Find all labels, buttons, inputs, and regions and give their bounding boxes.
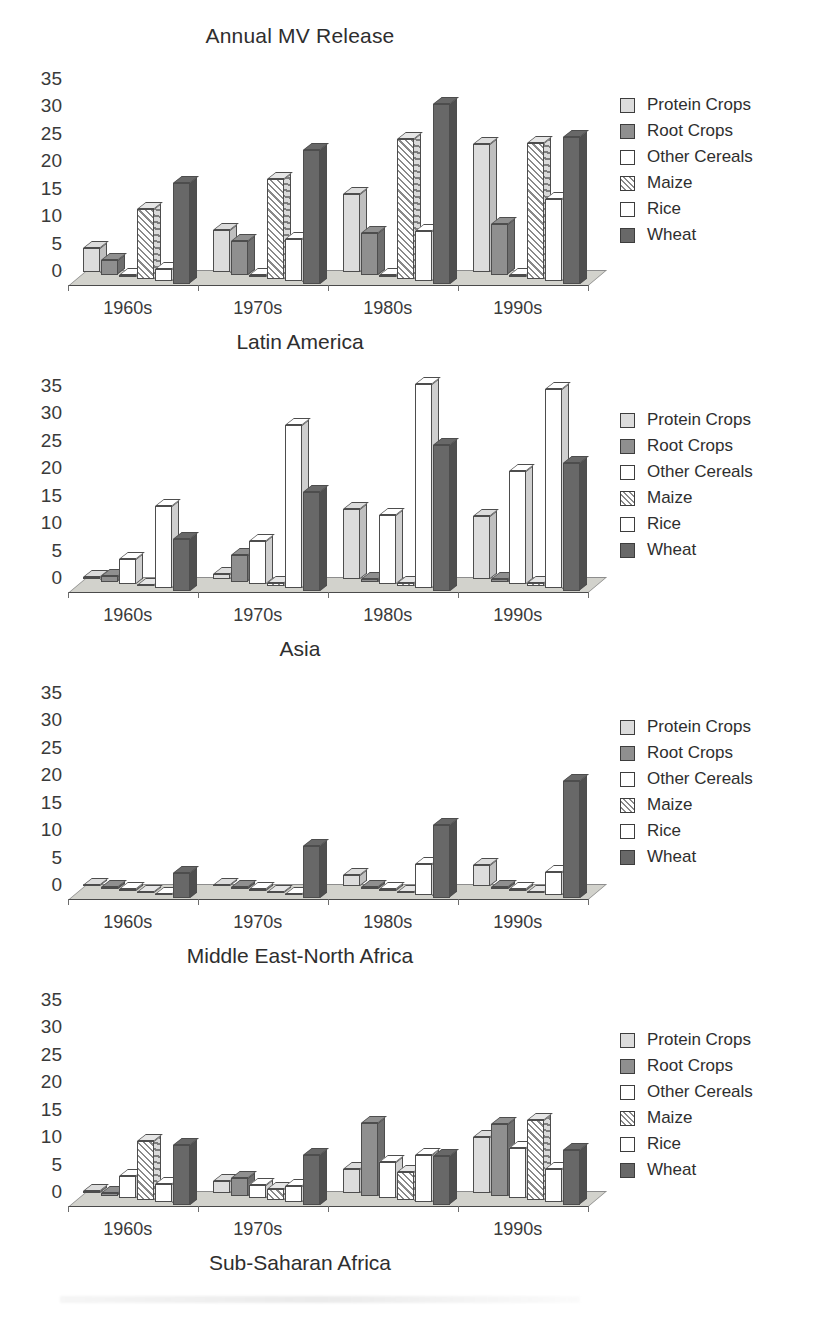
x-axis-label-1980s: 1980s	[363, 298, 412, 319]
bar-face	[119, 275, 136, 277]
legend-item-label: Root Crops	[647, 1056, 733, 1076]
wheat-swatch-icon	[620, 850, 635, 865]
bar-face	[545, 389, 562, 589]
bar-face	[83, 248, 100, 273]
bar-wheat-1980s	[433, 825, 450, 897]
bar-face	[343, 875, 360, 886]
x-axis-tick	[588, 592, 589, 598]
root-crops-swatch-icon	[620, 124, 635, 139]
bar-rice-1960s	[155, 894, 172, 896]
protein-crops-swatch-icon	[620, 98, 635, 113]
legend-item-rice[interactable]: Rice	[620, 511, 753, 537]
bar-face	[267, 583, 284, 586]
x-axis-label-1980s: 1980s	[363, 912, 412, 933]
bar-side	[190, 533, 197, 591]
x-axis-label-1970s: 1970s	[233, 298, 282, 319]
bar-face	[563, 463, 580, 590]
bar-face	[433, 104, 450, 284]
bar-face	[473, 865, 490, 886]
bar-maize-1970s	[267, 179, 284, 279]
bar-wheat-1980s	[433, 104, 450, 284]
x-axis-label-1960s: 1960s	[103, 605, 152, 626]
bar-other-cereals-1970s	[249, 541, 266, 584]
legend-item-wheat[interactable]: Wheat	[620, 222, 753, 248]
rice-swatch-icon	[620, 202, 635, 217]
legend-item-protein-crops[interactable]: Protein Crops	[620, 714, 753, 740]
bar-wheat-1960s	[173, 183, 190, 283]
legend-item-label: Wheat	[647, 540, 696, 560]
bar-maize-1970s	[267, 1189, 284, 1200]
bar-face	[343, 194, 360, 272]
bar-side	[266, 536, 273, 584]
legend-item-wheat[interactable]: Wheat	[620, 844, 753, 870]
y-tick-0: 0	[51, 568, 62, 587]
legend-item-root-crops[interactable]: Root Crops	[620, 433, 753, 459]
bar-maize-1980s	[397, 892, 414, 894]
bar-side	[360, 504, 367, 580]
legend-item-maize[interactable]: Maize	[620, 170, 753, 196]
bar-rice-1990s	[545, 389, 562, 589]
figure-title: Annual MV Release	[0, 24, 600, 48]
chart-panel-latin-america: 051015202530351960s1970s1980s1990sLatin …	[0, 78, 829, 366]
protein-crops-swatch-icon	[620, 720, 635, 735]
legend-item-protein-crops[interactable]: Protein Crops	[620, 1027, 753, 1053]
legend: Protein CropsRoot CropsOther CerealsMaiz…	[620, 92, 753, 248]
bar-face	[415, 864, 432, 896]
y-axis-labels: 05101520253035	[0, 999, 62, 1191]
legend-item-label: Wheat	[647, 225, 696, 245]
bar-maize-1990s	[527, 143, 544, 279]
legend: Protein CropsRoot CropsOther CerealsMaiz…	[620, 714, 753, 870]
legend-item-wheat[interactable]: Wheat	[620, 1157, 753, 1183]
legend-item-label: Wheat	[647, 1160, 696, 1180]
legend-item-label: Protein Crops	[647, 1030, 751, 1050]
y-axis-labels: 05101520253035	[0, 78, 62, 270]
legend-item-other-cereals[interactable]: Other Cereals	[620, 766, 753, 792]
wheat-swatch-icon	[620, 1163, 635, 1178]
legend-item-rice[interactable]: Rice	[620, 196, 753, 222]
y-tick-25: 25	[41, 1044, 62, 1063]
bar-face	[101, 260, 118, 274]
legend-item-root-crops[interactable]: Root Crops	[620, 118, 753, 144]
legend-item-other-cereals[interactable]: Other Cereals	[620, 1079, 753, 1105]
y-tick-20: 20	[41, 458, 62, 477]
y-tick-35: 35	[41, 990, 62, 1009]
legend-item-label: Protein Crops	[647, 95, 751, 115]
bar-side	[190, 1139, 197, 1204]
x-axis-tick	[198, 1206, 199, 1212]
root-crops-swatch-icon	[620, 1059, 635, 1074]
plot-area	[68, 999, 588, 1207]
bar-face	[267, 179, 284, 279]
x-axis-tick	[198, 285, 199, 291]
legend-item-rice[interactable]: Rice	[620, 1131, 753, 1157]
legend-item-protein-crops[interactable]: Protein Crops	[620, 92, 753, 118]
legend-item-maize[interactable]: Maize	[620, 792, 753, 818]
bar-root-crops-1960s	[101, 576, 118, 581]
bar-protein-crops-1970s	[213, 230, 230, 273]
wheat-swatch-icon	[620, 228, 635, 243]
legend-item-maize[interactable]: Maize	[620, 485, 753, 511]
legend-item-protein-crops[interactable]: Protein Crops	[620, 407, 753, 433]
bar-protein-crops-1970s	[213, 1181, 230, 1193]
x-axis-tick	[328, 592, 329, 598]
legend-item-root-crops[interactable]: Root Crops	[620, 1053, 753, 1079]
legend-item-label: Rice	[647, 1134, 681, 1154]
bar-maize-1960s	[137, 209, 154, 279]
bar-side	[526, 465, 533, 583]
legend-item-root-crops[interactable]: Root Crops	[620, 740, 753, 766]
x-axis-tick	[458, 899, 459, 905]
bar-side	[320, 487, 327, 591]
bar-face	[119, 889, 136, 891]
legend-item-other-cereals[interactable]: Other Cereals	[620, 459, 753, 485]
legend-item-wheat[interactable]: Wheat	[620, 537, 753, 563]
bar-face	[249, 541, 266, 584]
bar-other-cereals-1960s	[119, 889, 136, 891]
bar-face	[563, 137, 580, 284]
bar-face	[545, 872, 562, 895]
legend-item-other-cereals[interactable]: Other Cereals	[620, 144, 753, 170]
bar-face	[433, 445, 450, 591]
legend-item-maize[interactable]: Maize	[620, 1105, 753, 1131]
legend-item-rice[interactable]: Rice	[620, 818, 753, 844]
x-axis-label-1960s: 1960s	[103, 912, 152, 933]
bar-side	[450, 820, 457, 898]
bar-maize-1980s	[397, 583, 414, 586]
